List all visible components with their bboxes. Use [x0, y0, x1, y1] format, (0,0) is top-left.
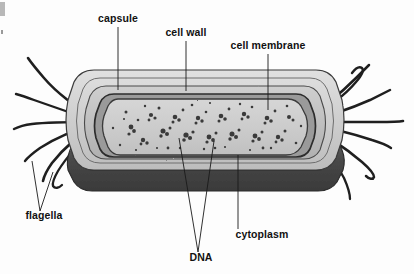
scan-artifact — [0, 2, 5, 16]
label-cell-wall: cell wall — [165, 26, 206, 38]
diagram-canvas: capsule cell wall cell membrane flagella… — [0, 0, 414, 274]
label-flagella: flagella — [26, 209, 63, 221]
label-cytoplasm: cytoplasm — [236, 228, 289, 240]
scan-artifact-dot — [1, 30, 3, 34]
cell-body — [66, 70, 344, 191]
label-dna: DNA — [189, 251, 212, 263]
label-capsule: capsule — [98, 12, 138, 24]
bacterial-cell-diagram: capsule cell wall cell membrane flagella… — [0, 0, 414, 274]
label-cell-membrane: cell membrane — [231, 39, 306, 51]
